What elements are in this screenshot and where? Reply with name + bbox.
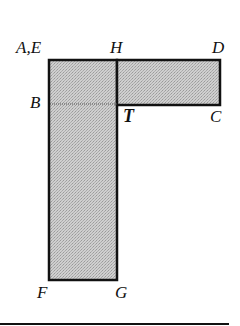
label-t: T [123,106,135,126]
diagram-canvas: A,E H D B T C F G [0,0,240,326]
label-d: D [211,38,225,57]
label-f: F [36,283,48,302]
horizontal-rectangle [117,60,220,105]
label-c: C [210,107,222,126]
label-ae: A,E [15,38,42,57]
vertical-rectangle [49,60,117,280]
label-h: H [109,38,124,57]
label-b: B [30,93,41,112]
label-g: G [115,283,127,302]
